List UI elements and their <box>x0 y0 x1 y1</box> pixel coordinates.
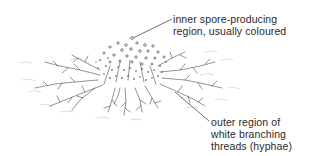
label-inner-spore-region: inner spore-producing region, usually co… <box>173 13 286 37</box>
leader-line-inner <box>133 19 172 38</box>
hyphae-threads <box>35 52 222 115</box>
label-outer-line-3: threads (hyphae) <box>211 140 292 152</box>
label-outer-line-1: outer region of <box>211 116 292 128</box>
leader-line-outer <box>175 92 209 121</box>
label-outer-line-2: white branching <box>211 128 292 140</box>
label-inner-line-2: region, usually coloured <box>173 25 286 37</box>
mould-colony-diagram: inner spore-producing region, usually co… <box>0 0 319 156</box>
spore-heads <box>103 37 165 66</box>
label-inner-line-1: inner spore-producing <box>173 13 286 25</box>
label-outer-hyphae-region: outer region of white branching threads … <box>211 116 292 152</box>
